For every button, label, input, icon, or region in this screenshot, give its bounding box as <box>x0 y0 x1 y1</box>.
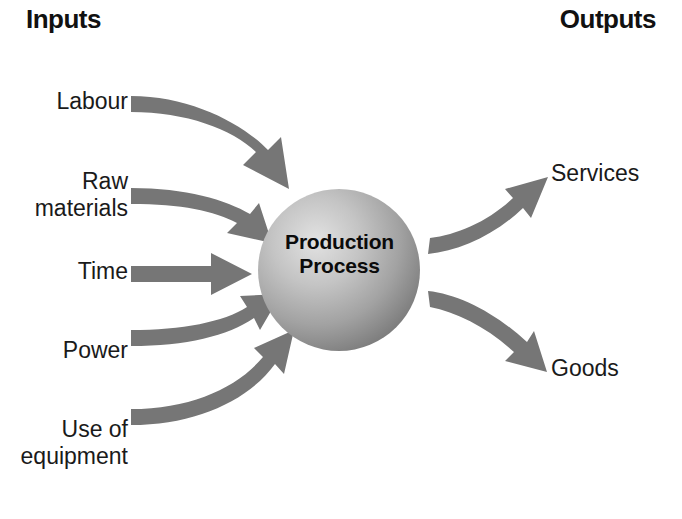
arrow-output-services <box>428 177 548 254</box>
arrow-input-time <box>131 253 252 295</box>
input-label-use-of-equipment-line1: Use of <box>0 416 128 443</box>
output-label-services: Services <box>551 160 639 187</box>
input-label-time: Time <box>0 258 128 285</box>
output-label-goods: Goods <box>551 355 619 382</box>
arrow-output-goods <box>428 291 547 372</box>
input-label-raw-materials: Raw materials <box>0 168 128 222</box>
arrow-input-raw-materials <box>131 188 272 243</box>
production-process-sphere <box>258 189 420 351</box>
arrow-input-labour <box>131 96 289 189</box>
production-process-diagram: Inputs Outputs Production Pro <box>0 0 682 519</box>
input-label-labour: Labour <box>0 88 128 115</box>
input-label-raw-materials-line2: materials <box>0 195 128 222</box>
input-label-use-of-equipment-line2: equipment <box>0 443 128 470</box>
input-label-raw-materials-line1: Raw <box>0 168 128 195</box>
arrow-input-power <box>131 294 281 346</box>
input-label-use-of-equipment: Use of equipment <box>0 416 128 470</box>
input-label-power: Power <box>0 337 128 364</box>
